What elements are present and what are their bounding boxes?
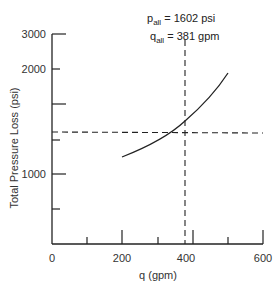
x-label-200: 200 xyxy=(113,252,131,264)
y-label-3000: 3000 xyxy=(22,28,46,40)
y-label-2000: 2000 xyxy=(22,63,46,75)
p-all-dashed-line xyxy=(52,132,263,133)
pressure-loss-curve xyxy=(122,73,228,157)
x-label-400: 400 xyxy=(177,252,195,264)
x-axis-title: q (gpm) xyxy=(139,269,177,281)
p-all-annotation: pall = 1602 psi xyxy=(147,12,215,27)
y-axis-title: Total Pressure Loss (psi) xyxy=(8,87,20,208)
x-label-0: 0 xyxy=(49,252,55,264)
x-label-600: 600 xyxy=(254,252,272,264)
pressure-loss-chart: 3000 2000 1000 0 200 400 600 q (gpm) Tot… xyxy=(0,0,279,289)
y-label-1000: 1000 xyxy=(22,168,46,180)
